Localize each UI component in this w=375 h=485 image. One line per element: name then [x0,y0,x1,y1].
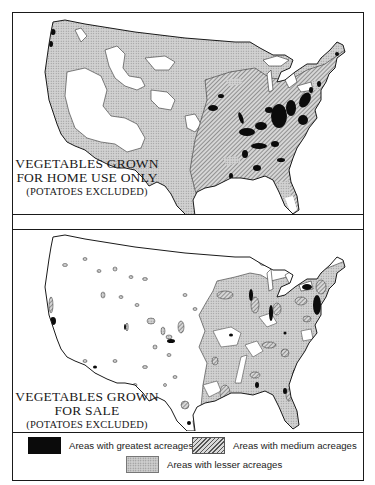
legend-item-lesser: Areas with lesser acreages [126,456,282,473]
title-line-2: FOR HOME USE ONLY [14,171,160,185]
map-title-for-sale: VEGETABLES GROWN FOR SALE (POTATOES EXCL… [14,390,160,431]
legend-label-greatest: Areas with greatest acreages [69,440,193,451]
legend-divider [12,432,364,433]
title-line-2: FOR SALE [14,404,160,418]
legend-item-greatest: Areas with greatest acreages [28,437,193,454]
panel-divider-bottom [12,229,364,230]
panel-divider-top [12,214,364,215]
title-line-3: (POTATOES EXCLUDED) [14,418,160,431]
title-line-3: (POTATOES EXCLUDED) [14,185,160,198]
legend-label-medium: Areas with medium acreages [233,440,357,451]
legend-item-medium: Areas with medium acreages [192,437,357,454]
title-line-1: VEGETABLES GROWN [14,390,160,404]
legend-swatch-greatest [28,437,61,454]
legend-label-lesser: Areas with lesser acreages [167,459,282,470]
title-line-1: VEGETABLES GROWN [14,157,160,171]
legend-swatch-lesser [126,456,159,473]
map-title-home-use: VEGETABLES GROWN FOR HOME USE ONLY (POTA… [14,157,160,198]
legend-swatch-medium [192,437,225,454]
